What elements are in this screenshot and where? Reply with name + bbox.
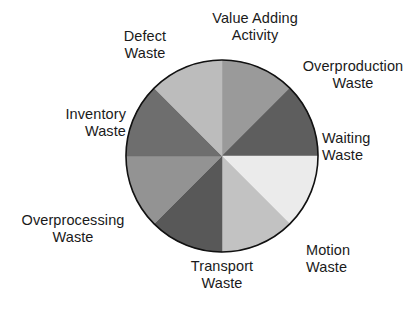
pie-chart-figure: Value Adding Activity Overproduction Was…	[0, 0, 415, 312]
slice-label-defect-waste: Defect Waste	[98, 28, 192, 62]
slice-label-inventory-waste: Inventory Waste	[22, 106, 126, 140]
slice-label-overproduction-waste: Overproduction Waste	[290, 58, 415, 92]
slice-label-motion-waste: Motion Waste	[306, 242, 402, 276]
slice-label-value-adding-activity: Value Adding Activity	[186, 10, 324, 44]
slice-label-overprocessing-waste: Overprocessing Waste	[4, 212, 142, 246]
slice-label-transport-waste: Transport Waste	[166, 258, 278, 292]
slice-label-waiting-waste: Waiting Waste	[322, 130, 414, 164]
